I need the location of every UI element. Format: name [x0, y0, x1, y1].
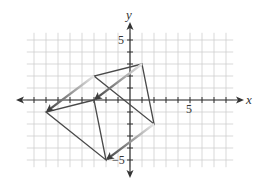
image-triangle [46, 100, 106, 160]
x-axis-label: x [245, 92, 252, 107]
translation-arrow-3 [108, 124, 155, 159]
y-axis-label: y [124, 7, 132, 22]
translation-plot: x y 5 5 −5 [0, 0, 264, 187]
y-tick-label-5: 5 [118, 33, 124, 47]
coordinate-plane-figure: x y 5 5 −5 [0, 0, 264, 187]
x-tick-label-5: 5 [186, 102, 192, 116]
